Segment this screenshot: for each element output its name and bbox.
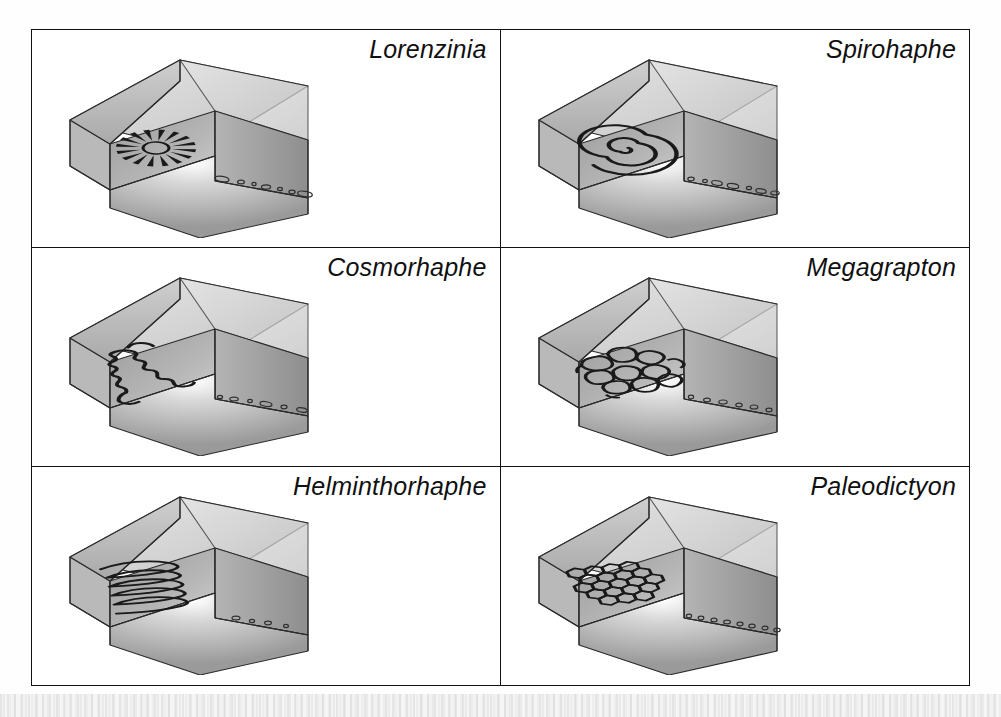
block-diagram-lorenzinia — [40, 48, 360, 238]
panel-label-lorenzinia: Lorenzinia — [369, 35, 486, 64]
panel-paleodictyon: Paleodictyon — [501, 467, 970, 685]
panel-megagrapton: Megagrapton — [501, 248, 970, 466]
panel-spirohaphe: Spirohaphe — [501, 30, 970, 248]
block-diagram-helminthorhaphe — [40, 485, 360, 675]
panel-lorenzinia: Lorenzinia — [32, 30, 501, 248]
block-diagram-paleodictyon — [509, 485, 829, 675]
panel-label-megagrapton: Megagrapton — [806, 253, 956, 282]
panel-helminthorhaphe: Helminthorhaphe — [32, 467, 501, 685]
panel-label-paleodictyon: Paleodictyon — [810, 472, 956, 501]
figure-plate: Lorenzinia — [31, 29, 970, 686]
panel-label-spirohaphe: Spirohaphe — [826, 35, 956, 64]
scan-artifact-strip — [0, 694, 1001, 717]
block-diagram-spirohaphe — [509, 48, 829, 238]
figure-root: Lorenzinia — [0, 0, 1001, 717]
panel-cosmorhaphe: Cosmorhaphe — [32, 248, 501, 466]
block-diagram-megagrapton — [509, 266, 829, 456]
block-diagram-cosmorhaphe — [40, 266, 360, 456]
